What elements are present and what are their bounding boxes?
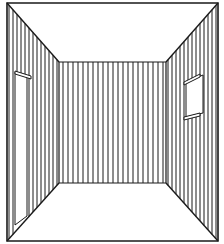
wall-openings — [15, 71, 203, 225]
door — [15, 72, 27, 225]
right-wall — [168, 5, 216, 239]
back-wall — [63, 62, 163, 183]
room-perspective-drawing — [0, 0, 224, 244]
room-diagram — [0, 0, 224, 244]
